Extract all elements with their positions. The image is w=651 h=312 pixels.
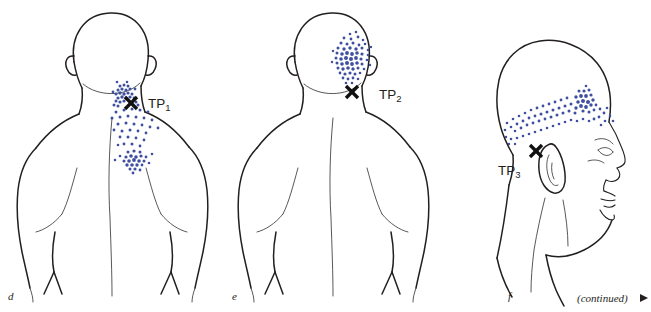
- panel-f-stipple-pattern: [504, 85, 615, 146]
- panel-e-tp-label: TP2: [379, 87, 402, 104]
- panel-d-stipple-pattern: [111, 81, 160, 175]
- panel-e-trigger-point-marker: [346, 86, 358, 98]
- continued-arrow-icon: [640, 294, 648, 302]
- panel-d-tp-label: TP1: [148, 96, 171, 113]
- panel-d: TP1 d: [8, 13, 208, 302]
- panel-e: TP2 e: [232, 13, 429, 302]
- trigger-point-figure: TP1 d: [0, 0, 651, 312]
- panel-f-tp-label: TP3: [498, 163, 521, 180]
- panel-e-body-outline: [238, 13, 429, 302]
- panel-letter-e: e: [232, 290, 237, 302]
- panel-letter-d: d: [8, 290, 14, 302]
- continued-label: (continued): [577, 292, 628, 305]
- panel-f: TP3 f: [497, 40, 625, 306]
- continued-note: (continued): [577, 292, 648, 305]
- panel-f-trigger-point-marker: [530, 145, 542, 157]
- panel-d-body-outline: [17, 13, 208, 302]
